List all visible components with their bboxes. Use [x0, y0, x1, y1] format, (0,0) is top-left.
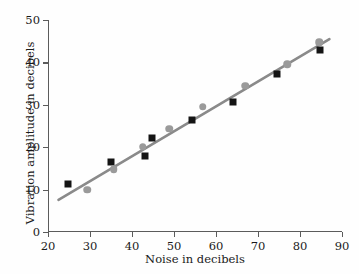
data-point-circle [242, 82, 250, 90]
x-tick-label: 40 [125, 239, 140, 253]
plot-area: 01020304050 2030405060708090 [48, 20, 342, 232]
x-tick-mark [258, 232, 259, 237]
y-tick-label: 10 [25, 183, 40, 197]
x-tick-label: 70 [251, 239, 266, 253]
data-point-square [316, 46, 323, 53]
y-tick-label: 50 [25, 13, 40, 27]
scatter-plot-figure: Vibration amplitude in decibels 01020304… [0, 0, 359, 274]
x-tick-mark [132, 232, 133, 237]
data-point-square [141, 153, 148, 160]
x-tick-label: 90 [335, 239, 350, 253]
y-tick-label: 40 [25, 55, 40, 69]
data-point-square [189, 116, 196, 123]
data-point-circle [110, 165, 118, 173]
y-tick-label: 30 [25, 98, 40, 112]
x-tick-mark [48, 232, 49, 237]
data-point-circle [199, 103, 207, 111]
x-tick-mark [90, 232, 91, 237]
data-point-circle [84, 186, 92, 194]
x-tick-label: 80 [293, 239, 308, 253]
y-tick-label: 20 [25, 140, 40, 154]
x-tick-label: 30 [83, 239, 98, 253]
x-axis-label: Noise in decibels [48, 252, 342, 266]
data-point-square [108, 158, 115, 165]
data-point-circle [316, 39, 324, 47]
data-point-square [273, 71, 280, 78]
data-point-square [64, 180, 71, 187]
x-tick-mark [342, 232, 343, 237]
data-point-square [149, 134, 156, 141]
y-axis-label-wrapper: Vibration amplitude in decibels [14, 0, 15, 274]
x-tick-mark [300, 232, 301, 237]
x-tick-mark [174, 232, 175, 237]
x-tick-label: 60 [209, 239, 224, 253]
x-tick-label: 50 [167, 239, 182, 253]
data-point-circle [139, 143, 147, 151]
data-point-circle [166, 125, 174, 133]
x-tick-mark [216, 232, 217, 237]
data-point-square [230, 98, 237, 105]
data-point-layer [48, 20, 342, 232]
y-tick-label: 0 [33, 225, 40, 239]
x-tick-label: 20 [41, 239, 56, 253]
data-point-circle [284, 60, 292, 68]
